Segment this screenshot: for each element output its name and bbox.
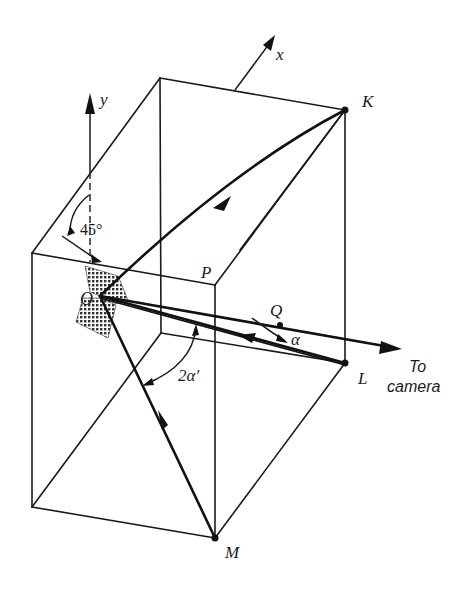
to-camera-label-line2: camera [387,378,440,395]
y-axis-arrowhead-icon [85,93,95,114]
ray-K-arrowhead-icon [213,196,231,211]
point-M-marker [212,535,219,542]
point-L-label: L [357,369,367,388]
ray-O-to-L [100,296,345,363]
point-K-marker [342,107,349,114]
alpha-label: α [291,330,301,349]
rays [100,110,402,538]
alpha-arrowhead-icon [276,334,288,343]
edge-back-vertical [160,78,161,333]
cube-edges [32,78,345,538]
edge-top-back [160,78,345,110]
point-K-label: K [361,92,375,111]
angle-45-arrowhead-icon [67,226,75,236]
edge-bottom-right-diagonal [215,363,345,538]
cube-hidden-edges [32,78,345,507]
point-O-label: O [80,289,93,309]
point-Q-marker [277,322,283,328]
angle-45-annotation: 45° [62,195,102,263]
point-P-label: P [200,263,211,282]
two-alpha-prime-annotation: 2α′ [142,324,199,386]
to-camera-arrowhead-icon [379,341,402,354]
y-axis-label: y [98,90,108,109]
two-alpha-prime-top-arrowhead-icon [192,324,199,336]
edge-back-bottom-left [32,333,161,507]
corner-reflector-diagram: x y 45° [0,0,475,591]
edge-top-front [32,253,215,285]
x-axis: x [235,35,284,90]
two-alpha-prime-bottom-arrowhead-icon [142,378,154,386]
ray-O-to-camera [100,296,390,347]
point-M-label: M [224,543,240,562]
x-axis-label: x [275,45,284,64]
to-camera-label-line1: To [409,358,426,375]
mirror-normal-tip-icon [91,254,102,263]
point-L-marker [342,360,349,367]
two-alpha-prime-label: 2α′ [178,366,199,385]
angle-45-label: 45° [80,221,102,238]
ray-K-thin [240,110,345,250]
edge-bottom-front [32,507,215,538]
point-Q-label: Q [270,301,282,320]
